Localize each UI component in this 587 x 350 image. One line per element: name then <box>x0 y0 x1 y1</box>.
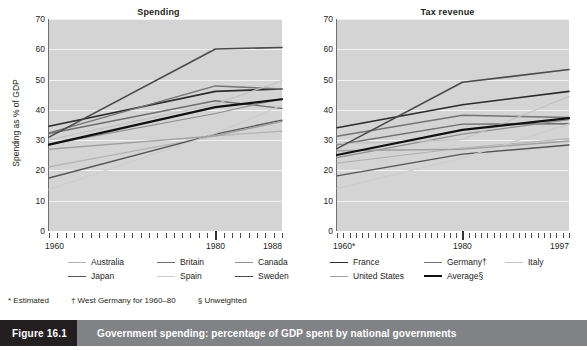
x-axis-tick <box>343 233 344 238</box>
x-axis-tick <box>569 233 570 238</box>
x-axis-tick-label: 1980 <box>206 241 225 251</box>
x-axis-tick-label: 1960 <box>45 241 64 251</box>
chart-panel-spending: Spending Spending as % of GDP 0102030405… <box>0 0 295 255</box>
x-axis-tick-label: 1988 <box>263 241 282 251</box>
legend-item-britain[interactable]: Britain <box>157 257 204 267</box>
x-axis-tick <box>174 233 175 238</box>
x-axis-tick <box>450 233 451 238</box>
x-axis-tick <box>66 233 67 238</box>
x-axis-tick <box>513 233 514 238</box>
x-axis-tick <box>116 233 117 238</box>
y-axis-tick-label: 60 <box>324 44 333 54</box>
series-layer <box>49 19 282 231</box>
legend-item-label: France <box>353 257 379 267</box>
y-axis-tick-label: 50 <box>324 75 333 85</box>
legend-item-average[interactable]: Average§ <box>424 271 483 281</box>
x-axis-tick <box>166 233 167 238</box>
footnote: † West Germany for 1960–80 <box>71 296 176 305</box>
legend-item-label: Australia <box>91 257 124 267</box>
footnote: * Estimated <box>8 296 49 305</box>
x-axis-tick <box>141 233 142 238</box>
legend-swatch-icon <box>424 275 442 277</box>
legend-item-label: Germany† <box>447 257 487 267</box>
x-axis-tick <box>207 233 208 238</box>
x-axis-tick <box>387 233 388 238</box>
series-line-france <box>49 89 282 126</box>
x-axis-tick <box>99 233 100 238</box>
legend-item-spain[interactable]: Spain <box>157 271 202 281</box>
legend-item-label: United States <box>353 271 404 281</box>
legend-item-japan[interactable]: Japan <box>68 271 114 281</box>
y-axis-tick-label: 70 <box>324 14 333 24</box>
legend-swatch-icon <box>157 276 175 277</box>
figure-caption-bar: Figure 16.1 Government spending: percent… <box>0 320 587 346</box>
x-axis-tick <box>381 233 382 238</box>
chart-legend: AustraliaBritainCanadaFranceGermany†Ital… <box>0 257 587 290</box>
x-axis-tick <box>437 233 438 238</box>
x-axis-tick <box>393 233 394 238</box>
chart-panel-tax-revenue: Tax revenue 0102030405060701960*19801997 <box>292 0 587 255</box>
y-axis-tick-label: 0 <box>328 226 333 236</box>
x-axis-tick <box>531 233 532 238</box>
legend-swatch-icon <box>235 276 253 277</box>
y-axis-tick-label: 40 <box>324 105 333 115</box>
x-axis-tick <box>556 233 557 238</box>
x-axis-tick <box>425 233 426 238</box>
x-axis-tick <box>132 233 133 238</box>
legend-item-sweden[interactable]: Sweden <box>235 271 289 281</box>
x-axis-tick <box>487 233 488 238</box>
charts-area: Spending Spending as % of GDP 0102030405… <box>0 0 587 255</box>
x-axis-tick <box>199 233 200 238</box>
legend-item-germany[interactable]: Germany† <box>424 257 487 267</box>
x-axis-tick <box>182 233 183 238</box>
x-axis-tick <box>550 233 551 238</box>
legend-item-canada[interactable]: Canada <box>235 257 288 267</box>
legend-item-label: Britain <box>180 257 204 267</box>
y-axis-tick-label: 20 <box>36 165 45 175</box>
y-axis-tick-label: 20 <box>324 165 333 175</box>
x-axis-tick <box>563 233 564 238</box>
legend-item-italy[interactable]: Italy <box>505 257 544 267</box>
x-axis-tick <box>481 233 482 238</box>
legend-item-australia[interactable]: Australia <box>68 257 124 267</box>
x-axis-tick <box>157 233 158 238</box>
x-axis-tick <box>149 233 150 238</box>
x-axis-tick-label: 1960* <box>333 241 355 251</box>
x-axis-tick <box>525 233 526 238</box>
x-axis-tick <box>412 233 413 238</box>
legend-item-france[interactable]: France <box>330 257 379 267</box>
x-axis-tick <box>400 233 401 238</box>
legend-item-unitedstates[interactable]: United States <box>330 271 404 281</box>
legend-swatch-icon <box>157 262 175 263</box>
legend-item-label: Italy <box>528 257 544 267</box>
x-axis-tick <box>190 233 191 238</box>
legend-item-label: Sweden <box>258 271 289 281</box>
x-axis-tick <box>240 233 241 238</box>
legend-swatch-icon <box>424 262 442 263</box>
x-axis-tick <box>506 233 507 238</box>
x-axis-tick <box>444 233 445 238</box>
legend-row-top: AustraliaBritainCanadaFranceGermany†Ital… <box>0 257 587 272</box>
legend-row-bottom: JapanSpainSwedenUnited StatesAverage§ <box>0 271 587 286</box>
legend-swatch-icon <box>68 276 86 277</box>
legend-swatch-icon <box>505 262 523 263</box>
x-axis-tick <box>362 233 363 238</box>
x-axis-tick <box>232 233 233 238</box>
y-axis-tick-label: 10 <box>36 196 45 206</box>
chart-title-tax-revenue: Tax revenue <box>292 7 587 17</box>
x-axis-tick <box>49 233 50 238</box>
figure-caption-text: Government spending: percentage of GDP s… <box>77 328 456 339</box>
legend-item-label: Canada <box>258 257 288 267</box>
y-axis-tick-label: 40 <box>36 105 45 115</box>
x-axis-tick <box>494 233 495 238</box>
x-axis-tick <box>406 233 407 238</box>
legend-item-label: Average§ <box>447 271 483 281</box>
plot-area-tax-revenue: 0102030405060701960*19801997 <box>336 19 569 231</box>
x-axis-tick <box>431 233 432 238</box>
x-axis-tick <box>500 233 501 238</box>
series-line-italy <box>337 97 569 144</box>
figure-container: Spending Spending as % of GDP 0102030405… <box>0 0 587 350</box>
x-axis-tick <box>215 231 216 240</box>
y-axis-tick-label: 50 <box>36 75 45 85</box>
y-axis-tick-label: 0 <box>40 226 45 236</box>
